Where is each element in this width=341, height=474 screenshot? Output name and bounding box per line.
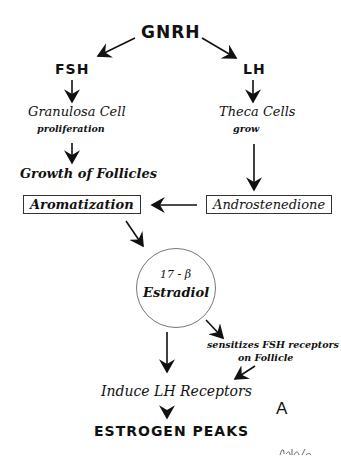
arrow-sensitizes-to-induce xyxy=(235,366,255,379)
arrow-estradiol-to-sensitizes xyxy=(206,320,223,338)
node-induce-lh-receptors: Induce LH Receptors xyxy=(101,383,252,399)
node-fsh: FSH xyxy=(55,61,89,77)
node-theca-grow: grow xyxy=(233,123,259,134)
arrow-gnrh-to-fsh xyxy=(98,38,135,56)
note-sensitizes-line1: sensitizes FSH receptors xyxy=(207,339,339,350)
note-sensitizes-line2: on Follicle xyxy=(238,352,293,363)
arrows-layer xyxy=(0,0,341,474)
arrow-gnrh-to-lh xyxy=(202,38,236,58)
artist-signature xyxy=(278,446,314,458)
node-growth-of-follicles: Growth of Follicles xyxy=(20,166,157,181)
node-granulosa-cell: Granulosa Cell xyxy=(28,104,126,119)
estradiol-label-line2: Estradiol xyxy=(143,285,209,300)
node-theca-cells: Theca Cells xyxy=(219,104,296,119)
arrow-aromatization-to-estradiol xyxy=(126,221,143,246)
node-lh: LH xyxy=(243,61,266,77)
box-aromatization: Aromatization xyxy=(23,195,141,214)
panel-label: A xyxy=(276,399,287,419)
estradiol-label-line1: 17 - β xyxy=(160,268,191,281)
node-granulosa-proliferation: proliferation xyxy=(37,123,105,134)
node-gnrh: GNRH xyxy=(141,22,201,42)
node-estrogen-peaks: ESTROGEN PEAKS xyxy=(94,423,249,439)
box-androstenedione: Androstenedione xyxy=(206,195,332,214)
